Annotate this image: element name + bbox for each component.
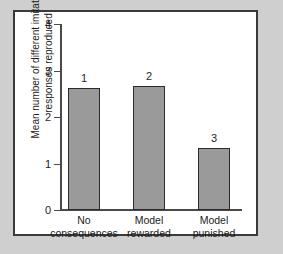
y-tick-mark-1 (54, 164, 61, 165)
bar-no-consequences[interactable] (68, 88, 100, 210)
y-tick-mark-0 (54, 210, 61, 211)
bar-annotation-3: 3 (198, 133, 230, 144)
bar-annotation-2: 2 (133, 71, 165, 82)
y-tick-label-3: 3 (33, 66, 51, 77)
bar-chart-plot-area: Mean number of different imitative respo… (15, 12, 260, 238)
y-tick-mark-2 (54, 117, 61, 118)
y-tick-mark-3 (54, 71, 61, 72)
bar-model-rewarded[interactable] (133, 86, 165, 210)
bar-annotation-1: 1 (68, 73, 100, 84)
y-tick-label-2: 2 (33, 112, 51, 123)
bar-model-punished[interactable] (198, 148, 230, 210)
y-tick-mark-4 (54, 24, 61, 25)
y-tick-label-1: 1 (33, 159, 51, 170)
figure-frame: Mean number of different imitative respo… (13, 10, 258, 236)
x-category-label-model-punished: Model punished (171, 214, 257, 239)
y-tick-label-4: 4 (33, 19, 51, 30)
